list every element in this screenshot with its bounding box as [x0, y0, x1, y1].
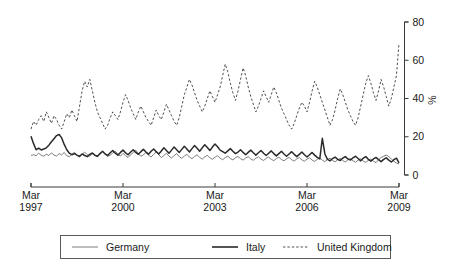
y-tick-label: 80 [413, 16, 425, 28]
time-series-chart: 020406080 Mar1997Mar2000Mar2003Mar2006Ma… [0, 0, 452, 270]
legend-label-germany: Germany [106, 241, 150, 253]
x-tick-label-month: Mar [22, 189, 41, 201]
x-tick-label-month: Mar [298, 189, 317, 201]
x-tick-label-year: 2009 [387, 201, 411, 213]
chart-figure: 020406080 Mar1997Mar2000Mar2003Mar2006Ma… [0, 0, 452, 270]
chart-legend: GermanyItalyUnited Kingdom [61, 236, 392, 259]
x-tick-label-month: Mar [390, 189, 409, 201]
legend-label-united-kingdom: United Kingdom [317, 241, 392, 253]
legend-entries: GermanyItalyUnited Kingdom [72, 241, 392, 253]
x-axis: Mar1997Mar2000Mar2003Mar2006Mar2009 [19, 183, 411, 213]
x-tick-label-month: Mar [114, 189, 133, 201]
series-line-united-kingdom [31, 43, 399, 129]
x-tick-label-year: 2006 [295, 201, 319, 213]
x-tick-label-month: Mar [206, 189, 225, 201]
x-tick-label-year: 1997 [19, 201, 43, 213]
x-tick-label-year: 2000 [111, 201, 135, 213]
y-tick-group: 020406080 [405, 16, 425, 181]
series-line-italy [31, 134, 399, 162]
y-tick-label: 60 [413, 54, 425, 66]
x-tick-label-year: 2003 [203, 201, 227, 213]
y-axis: 020406080 [405, 16, 425, 181]
y-axis-title: % [426, 95, 438, 104]
y-tick-label: 0 [413, 169, 419, 181]
series-group [31, 43, 399, 164]
y-tick-label: 40 [413, 92, 425, 104]
legend-label-italy: Italy [246, 241, 266, 253]
y-tick-label: 20 [413, 130, 425, 142]
